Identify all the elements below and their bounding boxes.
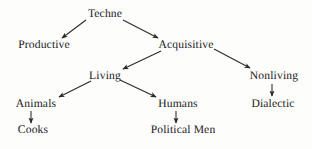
- edge-group: [31, 20, 272, 123]
- node-dialectic: Dialectic: [251, 98, 294, 110]
- node-techne: Techne: [88, 8, 122, 20]
- arrow-techne-productive: [62, 20, 86, 38]
- node-political_men: Political Men: [151, 124, 216, 136]
- arrow-acquisitive-living: [123, 51, 161, 69]
- node-nonliving: Nonliving: [250, 70, 298, 82]
- node-acquisitive: Acquisitive: [158, 39, 213, 51]
- diagram-canvas: TechneProductiveAcquisitiveLivingNonlivi…: [0, 0, 312, 149]
- node-productive: Productive: [18, 39, 70, 51]
- node-living: Living: [89, 70, 121, 82]
- arrow-living-animals: [59, 81, 91, 97]
- arrow-living-humans: [120, 80, 156, 97]
- node-cooks: Cooks: [18, 124, 48, 136]
- arrow-techne-acquisitive: [123, 20, 158, 38]
- node-humans: Humans: [158, 98, 198, 110]
- node-animals: Animals: [16, 98, 56, 110]
- arrow-acquisitive-nonliving: [214, 49, 250, 68]
